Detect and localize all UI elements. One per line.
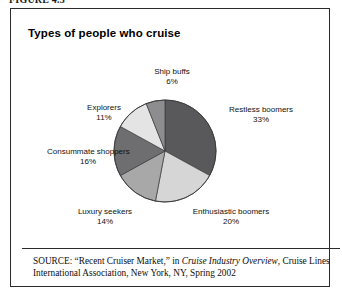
pie-label-consummate-shoppers: Consummate shoppers 16% — [47, 147, 129, 167]
pie-label-enthusiastic-boomers-value: 20% — [187, 217, 275, 227]
source-note: SOURCE: “Recent Cruiser Market,” in Crui… — [33, 255, 333, 280]
pie-label-ship-buffs: Ship buffs 6% — [129, 67, 215, 87]
pie-label-restless-boomers: Restless boomers 33% — [225, 105, 297, 125]
figure-label: FIGURE 4.3 — [9, 0, 65, 5]
page-title: Types of people who cruise — [28, 27, 181, 39]
source-divider — [22, 248, 340, 249]
pie-label-explorers: Explorers 11% — [67, 103, 141, 123]
pie-label-explorers-text: Explorers — [87, 103, 121, 112]
source-text-part1: “Recent Cruiser Market,” in — [72, 256, 181, 266]
pie-label-ship-buffs-value: 6% — [129, 77, 215, 87]
pie-label-explorers-value: 11% — [67, 113, 141, 123]
pie-label-ship-buffs-text: Ship buffs — [154, 67, 189, 76]
pie-label-restless-boomers-value: 33% — [225, 115, 297, 125]
pie-label-enthusiastic-boomers-text: Enthusiastic boomers — [193, 207, 269, 216]
pie-label-luxury-seekers: Luxury seekers 14% — [59, 207, 151, 227]
pie-label-restless-boomers-text: Restless boomers — [229, 105, 293, 114]
pie-label-consummate-shoppers-text: Consummate shoppers — [47, 147, 130, 156]
pie-label-consummate-shoppers-value: 16% — [47, 157, 129, 167]
pie-label-luxury-seekers-text: Luxury seekers — [78, 207, 132, 216]
source-keyword: SOURCE: — [33, 256, 72, 266]
pie-chart: Ship buffs 6% Restless boomers 33% Enthu… — [11, 49, 331, 245]
figure-box: Types of people who cruise Ship buffs 6%… — [10, 8, 330, 287]
pie-label-luxury-seekers-value: 14% — [59, 217, 151, 227]
source-publication-title: Cruise Industry Overview — [182, 256, 278, 266]
pie-label-enthusiastic-boomers: Enthusiastic boomers 20% — [187, 207, 275, 227]
